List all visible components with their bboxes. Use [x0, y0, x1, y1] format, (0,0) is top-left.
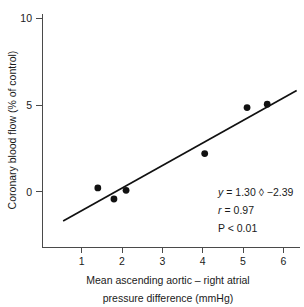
regression-equation-label: y= 1.30 ◊ −2.39: [217, 186, 293, 198]
chart-canvas: 10 5 0 1 2 3 4 5 6 y= 1.30 ◊ −2.39: [0, 0, 304, 307]
x-tick-label: 6: [280, 255, 286, 267]
correlation-body: = 0.97: [225, 204, 255, 216]
correlation-variable: r: [218, 204, 222, 216]
data-point: [111, 196, 118, 203]
x-tick-label: 1: [79, 255, 85, 267]
y-tick-label: 0: [26, 186, 32, 198]
equation-body: = 1.30 ◊ −2.39: [226, 186, 293, 198]
x-tick-label: 4: [200, 255, 206, 267]
x-axis-title-line2: pressure difference (mmHg): [103, 292, 234, 304]
stats-annotation-block: y= 1.30 ◊ −2.39 r= 0.97 P < 0.01: [217, 186, 293, 234]
x-axis-ticks: 1 2 3 4 5 6: [79, 247, 287, 267]
x-tick-label: 2: [119, 255, 125, 267]
scatter-chart-figure: 10 5 0 1 2 3 4 5 6 y= 1.30 ◊ −2.39: [0, 0, 304, 307]
data-point: [94, 184, 101, 191]
equation-variable: y: [217, 186, 224, 198]
regression-line: [63, 90, 297, 221]
y-axis-ticks: 10 5 0: [20, 12, 42, 197]
x-axis-title-line1: Mean ascending aortic – right atrial: [86, 274, 249, 286]
data-point: [201, 150, 208, 157]
data-point: [123, 187, 130, 194]
y-tick-label: 5: [26, 99, 32, 111]
y-axis-title: Coronary blood flow (% of control): [6, 51, 18, 210]
x-tick-label: 3: [159, 255, 165, 267]
correlation-label: r= 0.97: [218, 204, 254, 216]
pvalue-label: P < 0.01: [218, 222, 257, 234]
data-point: [244, 104, 251, 111]
x-tick-label: 5: [240, 255, 246, 267]
y-tick-label: 10: [20, 12, 32, 24]
data-point: [264, 101, 271, 108]
